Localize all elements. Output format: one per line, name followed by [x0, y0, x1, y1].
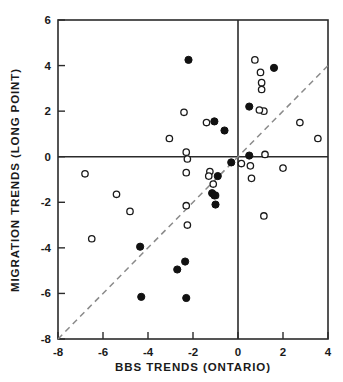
data-point-open-circles-4 — [166, 135, 172, 141]
y-tick-label-6: 4 — [45, 60, 52, 72]
data-point-filled-circles-6 — [211, 192, 218, 199]
y-axis-title: MIGRATION TRENDS (LONG POINT) — [9, 68, 21, 292]
data-point-open-circles-6 — [183, 149, 189, 155]
data-point-filled-circles-14 — [246, 103, 253, 110]
y-tick-label-0: -8 — [41, 333, 52, 345]
data-point-open-circles-24 — [256, 107, 262, 113]
data-point-open-circles-14 — [210, 181, 216, 187]
data-point-open-circles-9 — [183, 203, 189, 209]
data-point-filled-circles-0 — [185, 56, 192, 63]
data-point-open-circles-0 — [82, 171, 88, 177]
x-tick-label-2: -4 — [143, 346, 154, 358]
data-point-open-circles-20 — [258, 79, 264, 85]
data-point-open-circles-22 — [257, 69, 263, 75]
data-point-open-circles-17 — [247, 163, 253, 169]
data-point-open-circles-3 — [127, 208, 133, 214]
data-point-open-circles-18 — [248, 175, 254, 181]
data-point-open-circles-28 — [297, 119, 303, 125]
data-point-filled-circles-2 — [221, 127, 228, 134]
x-tick-label-5: 2 — [280, 346, 286, 358]
x-tick-label-6: 4 — [325, 346, 332, 358]
data-point-filled-circles-8 — [137, 243, 144, 250]
y-tick-label-3: -2 — [41, 196, 51, 208]
data-point-open-circles-13 — [206, 173, 212, 179]
data-point-filled-circles-11 — [182, 258, 189, 265]
data-point-open-circles-11 — [203, 119, 209, 125]
plot-frame — [58, 20, 328, 339]
chart-canvas: -8-6-4-2024-8-6-4-20246 BBS TRENDS (ONTA… — [0, 0, 343, 382]
data-point-open-circles-27 — [280, 165, 286, 171]
data-point-filled-circles-15 — [270, 64, 277, 71]
scatter-plot-figure: -8-6-4-2024-8-6-4-20246 BBS TRENDS (ONTA… — [0, 0, 343, 382]
data-point-open-circles-8 — [183, 169, 189, 175]
data-point-open-circles-7 — [184, 156, 190, 162]
data-point-open-circles-26 — [261, 213, 267, 219]
data-point-filled-circles-10 — [174, 266, 181, 273]
data-point-open-circles-10 — [184, 222, 190, 228]
x-tick-label-4: 0 — [235, 346, 241, 358]
x-axis-title: BBS TRENDS (ONTARIO) — [115, 361, 271, 373]
data-point-filled-circles-3 — [228, 159, 235, 166]
data-point-filled-circles-13 — [246, 152, 253, 159]
data-point-open-circles-29 — [315, 135, 321, 141]
data-point-open-circles-1 — [89, 236, 95, 242]
data-point-filled-circles-12 — [183, 294, 190, 301]
y-tick-label-1: -6 — [41, 287, 51, 299]
data-point-filled-circles-4 — [214, 172, 221, 179]
data-point-open-circles-2 — [113, 191, 119, 197]
data-point-filled-circles-9 — [138, 293, 145, 300]
data-point-open-circles-21 — [258, 86, 264, 92]
data-point-open-circles-19 — [252, 57, 258, 63]
data-point-filled-circles-7 — [212, 201, 219, 208]
y-tick-label-4: 0 — [45, 151, 51, 163]
data-point-open-circles-25 — [262, 151, 268, 157]
data-point-open-circles-16 — [238, 160, 244, 166]
y-tick-label-2: -4 — [41, 242, 52, 254]
data-point-filled-circles-1 — [211, 118, 218, 125]
x-tick-label-1: -6 — [98, 346, 108, 358]
x-tick-label-0: -8 — [53, 346, 64, 358]
y-tick-label-5: 2 — [45, 105, 51, 117]
y-tick-label-7: 6 — [45, 14, 51, 26]
plot-area-border — [58, 20, 328, 339]
data-point-open-circles-5 — [181, 109, 187, 115]
x-tick-label-3: -2 — [188, 346, 198, 358]
